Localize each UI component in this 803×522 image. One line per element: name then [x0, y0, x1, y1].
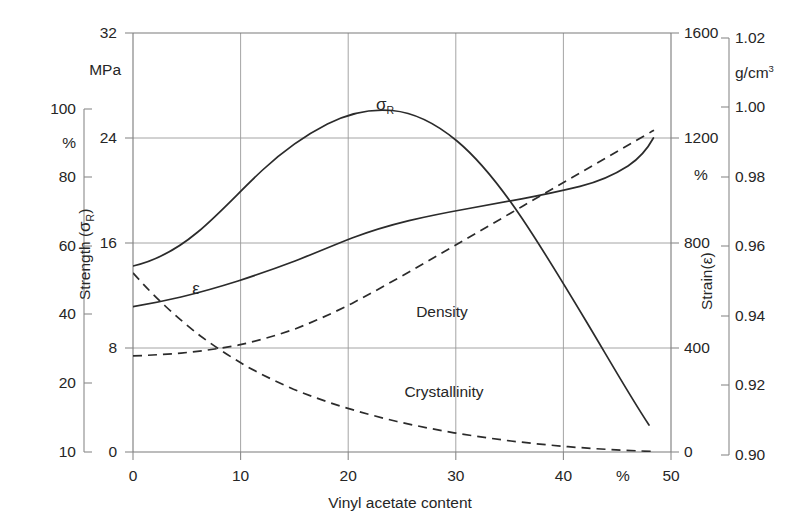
ticklabel-strain-1600: 1600	[684, 24, 719, 41]
axis-title-strength-sigma: σ	[75, 221, 94, 232]
ticklabel-crystallinity-20: 20	[59, 374, 77, 391]
ticklabel-x-20: 20	[340, 467, 358, 484]
axis-title-strength-head: Strength (	[76, 231, 93, 300]
ticklabel-crystallinity-80: 80	[59, 168, 77, 185]
curve-label-crystallinity: Crystallinity	[404, 383, 483, 400]
ticklabel-crystallinity-60: 60	[59, 237, 77, 254]
ticklabel-x-40: 40	[555, 467, 573, 484]
axis-title-strength: Strength (σR)	[75, 209, 96, 300]
unit-label-x-percent: %	[616, 467, 630, 484]
svg-text:Strength (σR): Strength (σR)	[75, 209, 96, 300]
ticklabel-x-0: 0	[129, 467, 138, 484]
ticklabel-density-0.98: 0.98	[735, 168, 765, 185]
curve-label-sigma-sub: R	[386, 104, 394, 116]
unit-label-gcm3-sup: 3	[769, 63, 774, 74]
ticklabel-strength-24: 24	[100, 129, 118, 146]
ticklabel-crystallinity-40: 40	[59, 305, 77, 322]
axis-title-strength-tail: )	[76, 209, 93, 214]
curve-label-epsilon: ε	[192, 279, 200, 298]
ticklabel-density-1.00: 1.00	[735, 98, 766, 115]
chart-canvas: 100 80 60 40 20 10 % 32 24 16 8 0 MPa St…	[0, 0, 803, 522]
ticklabel-density-0.96: 0.96	[735, 237, 765, 254]
ticklabel-strain-400: 400	[684, 339, 710, 356]
ticklabel-x-30: 30	[447, 467, 465, 484]
ticklabel-strain-800: 800	[684, 234, 710, 251]
chart-figure: 100 80 60 40 20 10 % 32 24 16 8 0 MPa St…	[0, 0, 803, 522]
chart-background	[0, 0, 803, 522]
curve-label-sigma-glyph: σ	[376, 95, 387, 114]
ticklabel-x-50: 50	[662, 467, 680, 484]
ticklabel-strain-0: 0	[684, 443, 693, 460]
curve-label-density: Density	[416, 303, 468, 320]
ticklabel-density-0.92: 0.92	[735, 376, 765, 393]
ticklabel-x-10: 10	[232, 467, 250, 484]
ticklabel-strength-8: 8	[108, 339, 117, 356]
axis-title-strain-text: Strain(ε)	[698, 252, 715, 310]
ticklabel-strength-16: 16	[100, 234, 117, 251]
ticklabel-strength-32: 32	[100, 24, 117, 41]
unit-label-gcm3-base: g/cm	[735, 64, 769, 81]
ticklabel-density-0.94: 0.94	[735, 307, 766, 324]
ticklabel-crystallinity-100: 100	[50, 100, 76, 117]
ticklabel-density-1.02: 1.02	[735, 29, 765, 46]
unit-label-gcm3: g/cm3	[735, 63, 774, 81]
axis-title-strain: Strain(ε)	[698, 252, 715, 310]
ticklabel-crystallinity-10: 10	[59, 443, 77, 460]
axis-title-x: Vinyl acetate content	[328, 494, 472, 511]
unit-label-mpa: MPa	[89, 61, 121, 78]
ticklabel-density-0.90: 0.90	[735, 446, 766, 463]
ticklabel-strength-0: 0	[108, 443, 117, 460]
ticklabel-strain-1200: 1200	[684, 129, 719, 146]
unit-label-percent-right: %	[694, 166, 708, 183]
unit-label-percent-left: %	[62, 134, 76, 151]
